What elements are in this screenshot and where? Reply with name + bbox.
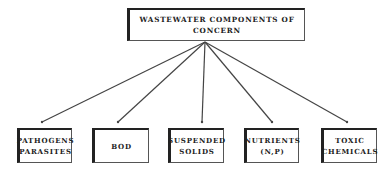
root-label: WASTEWATER COMPONENTS OF CONCERN xyxy=(130,14,304,36)
node-suspended-solids: SUSPENDED SOLIDS xyxy=(168,128,224,163)
node-label-line1: NUTRIENTS xyxy=(245,135,301,146)
node-pathogens-parasites: PATHOGENS PARASITES xyxy=(17,128,72,163)
node-label-line1: BOD xyxy=(111,141,132,152)
root-node: WASTEWATER COMPONENTS OF CONCERN xyxy=(127,8,305,41)
node-label-line2: SOLIDS xyxy=(168,146,226,157)
node-label-line1: PATHOGENS xyxy=(17,135,75,146)
node-label-line2: CHEMICALS xyxy=(322,146,379,157)
node-label-line1: SUSPENDED xyxy=(168,135,226,146)
node-nutrients: NUTRIENTS (N,P) xyxy=(244,128,299,163)
node-label-line2: PARASITES xyxy=(17,146,75,157)
node-toxic-chemicals: TOXIC CHEMICALS xyxy=(321,128,377,163)
node-bod: BOD xyxy=(92,128,149,163)
node-label-line1: TOXIC xyxy=(322,135,379,146)
node-label-line2: (N,P) xyxy=(245,146,301,157)
